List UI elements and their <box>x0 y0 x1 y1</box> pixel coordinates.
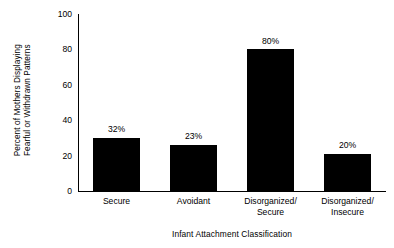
x-axis-title: Infant Attachment Classification <box>78 230 386 239</box>
x-axis-tick-label: Disorganized/Secure <box>232 196 309 218</box>
x-axis-tick-label: Avoidant <box>155 196 232 207</box>
y-axis-tick-label: 20 <box>46 151 76 160</box>
bar <box>324 154 371 191</box>
bar-group: 32% <box>93 14 140 191</box>
y-axis-tick-labels: 020406080100 <box>46 0 76 248</box>
bar-series: 32%23%80%20% <box>78 14 386 191</box>
bar-value-label: 20% <box>324 141 371 150</box>
x-tick-line-1: Disorganized/ <box>244 196 297 206</box>
x-tick-line-1: Avoidant <box>177 196 210 206</box>
y-axis-tick-label: 0 <box>46 187 76 196</box>
x-tick-line-2: Secure <box>232 207 309 218</box>
plot-area: 32%23%80%20% <box>78 14 386 191</box>
x-axis-tick-label: Secure <box>78 196 155 207</box>
bar-value-label: 80% <box>247 37 294 46</box>
bar-value-label: 32% <box>93 125 140 134</box>
x-axis-tick-labels: SecureAvoidantDisorganized/SecureDisorga… <box>78 196 386 230</box>
y-axis-title-line-1: Percent of Mothers Displaying <box>13 44 23 156</box>
bar-value-label: 23% <box>170 132 217 141</box>
bar-group: 20% <box>324 14 371 191</box>
y-axis-title: Percent of Mothers Displaying Fearful or… <box>0 0 46 200</box>
y-axis-tick-label: 100 <box>46 10 76 19</box>
x-axis-line <box>78 191 386 192</box>
x-axis-tick-label: Disorganized/Insecure <box>309 196 386 218</box>
bar <box>93 138 140 191</box>
bar <box>170 145 217 191</box>
bar <box>247 49 294 191</box>
bar-group: 80% <box>247 14 294 191</box>
y-axis-title-line-2: Fearful or Withdrawn Patterns <box>23 44 33 156</box>
bar-group: 23% <box>170 14 217 191</box>
x-tick-line-2: Insecure <box>309 207 386 218</box>
y-axis-tick-label: 80 <box>46 45 76 54</box>
x-tick-line-1: Secure <box>103 196 130 206</box>
y-axis-tick-label: 40 <box>46 116 76 125</box>
x-tick-line-1: Disorganized/ <box>321 196 374 206</box>
y-axis-tick-label: 60 <box>46 81 76 90</box>
bar-chart-figure: Percent of Mothers Displaying Fearful or… <box>0 0 394 248</box>
